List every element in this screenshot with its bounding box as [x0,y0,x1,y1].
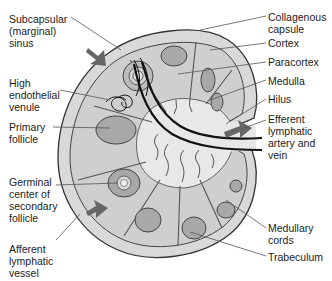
label-medullary-cords: Medullary cords [268,222,314,246]
label-cortex: Cortex [268,37,299,49]
label-germinal-center: Germinal center of secondary follicle [9,176,57,224]
label-efferent-lymphatic: Efferent lymphatic artery and vein [268,113,315,161]
label-hilus: Hilus [268,93,291,105]
label-collagenous-capsule: Collagenous capsule [268,11,326,35]
lymph-node-diagram: Subcapsular (marginal) sinus High endoth… [0,0,332,281]
label-subcapsular-sinus: Subcapsular (marginal) sinus [9,13,67,49]
label-paracortex: Paracortex [268,56,319,68]
label-afferent-lymphatic: Afferent lymphatic vessel [9,243,53,279]
label-high-endothelial-venule: High endothelial venule [9,77,60,113]
label-medulla: Medulla [268,75,305,87]
label-primary-follicle: Primary follicle [9,121,45,145]
secondary-follicle [123,61,153,91]
label-trabeculum: Trabeculum [268,251,323,263]
